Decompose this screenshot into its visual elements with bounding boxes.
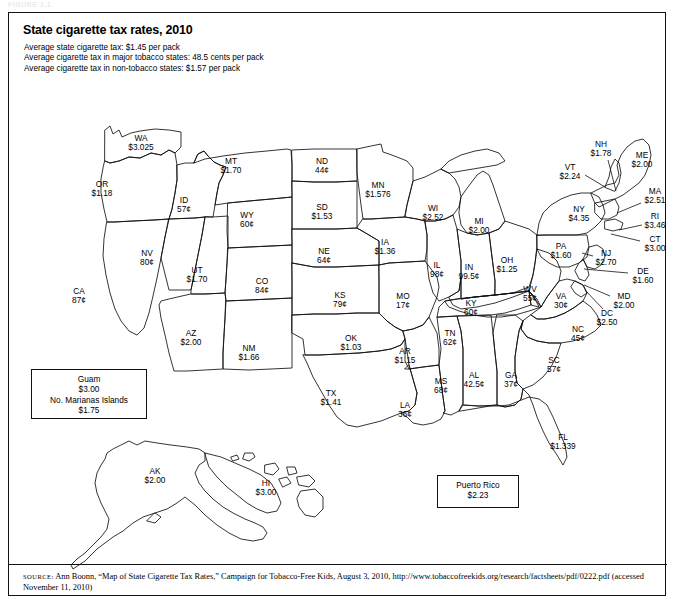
state-tax-value: 57¢ [177, 205, 191, 214]
state-tax-value: $1.18 [92, 189, 113, 198]
inset-line: $1.75 [38, 405, 140, 415]
source-note: SOURCE: Ann Boonn, “Map of State Cigaret… [23, 571, 653, 593]
source-divider [9, 564, 667, 565]
state-label-ut: UT$1.70 [187, 266, 208, 285]
state-tax-value: $1.03 [341, 343, 362, 352]
leader-line-vt [585, 175, 605, 187]
state-tax-value: $4.35 [569, 214, 590, 223]
state-tax-value: $2.70 [596, 258, 617, 267]
state-label-ms: MS68¢ [434, 377, 448, 396]
state-label-ia: IA$1.36 [375, 238, 396, 257]
state-label-va: VA30¢ [554, 292, 568, 311]
state-label-me: ME$2.00 [632, 151, 653, 170]
state-label-vt: VT$2.24 [560, 163, 581, 182]
state-tax-value: $1.25 [497, 265, 518, 274]
state-tax-value: 60¢ [464, 308, 478, 317]
state-tax-value: $1.576 [365, 190, 390, 199]
state-label-ks: KS79¢ [333, 291, 347, 310]
state-label-md: MD$2.00 [614, 292, 635, 311]
leader-line-dc [585, 290, 603, 309]
state-tax-value: $3.025 [128, 143, 153, 152]
source-label: SOURCE: [23, 573, 54, 580]
state-label-al: AL42.5¢ [464, 371, 485, 390]
state-label-id: ID57¢ [177, 196, 191, 215]
state-tax-value: $1.60 [551, 251, 572, 260]
state-label-fl: FL$1.339 [550, 433, 575, 452]
state-label-nd: ND44¢ [315, 157, 329, 176]
state-tax-value: $2.52 [423, 213, 444, 222]
state-tax-value: $1.36 [375, 247, 396, 256]
leader-line-de [584, 269, 628, 273]
state-label-az: AZ$2.00 [181, 329, 202, 348]
state-label-tn: TN62¢ [443, 329, 457, 348]
state-tax-value: 84¢ [255, 286, 269, 295]
state-label-mi: MI$2.00 [469, 217, 490, 236]
state-label-tx: TX$1.41 [321, 389, 342, 408]
state-tax-value: 79¢ [333, 300, 347, 309]
leader-line-ct [611, 234, 640, 241]
state-tax-value: $3.00 [256, 488, 277, 497]
state-label-ct: CT$3.00 [645, 235, 666, 254]
state-label-wy: WY60¢ [240, 211, 254, 230]
state-tax-value: $3.00 [645, 244, 666, 253]
state-tax-value: $1.60 [633, 276, 654, 285]
state-tax-value: 44¢ [315, 166, 329, 175]
state-label-wa: WA$3.025 [128, 134, 153, 153]
state-tax-value: 80¢ [140, 258, 154, 267]
leader-line-ma [617, 203, 641, 213]
state-tax-value: 55¢ [523, 294, 537, 303]
state-label-ar: AR$1.15 [395, 347, 416, 366]
state-tax-value: $1.15 [395, 356, 416, 365]
state-label-nc: NC45¢ [571, 325, 585, 344]
state-label-ca: CA87¢ [72, 287, 86, 306]
state-tax-value: 17¢ [396, 301, 410, 310]
state-tax-value: 62¢ [443, 338, 457, 347]
state-tax-value: 99.5¢ [459, 272, 480, 281]
state-tax-value: $1.339 [550, 442, 575, 451]
state-label-hi: HI$3.00 [256, 479, 277, 498]
state-tax-value: 36¢ [398, 410, 412, 419]
state-tax-value: $2.24 [560, 172, 581, 181]
inset-line: Puerto Rico [444, 480, 512, 490]
state-label-de: DE$1.60 [633, 267, 654, 286]
state-tax-value: $2.00 [469, 226, 490, 235]
state-tax-value: $2.50 [597, 318, 618, 327]
state-label-mt: MT$1.70 [221, 157, 242, 176]
state-label-wi: WI$2.52 [423, 204, 444, 223]
figure-container: State cigarette tax rates, 2010 Average … [8, 12, 666, 596]
state-label-sd: SD$1.53 [312, 203, 333, 222]
state-tax-value: $2.51 [645, 196, 666, 205]
state-label-in: IN99.5¢ [459, 263, 480, 282]
state-label-nv: NV80¢ [140, 249, 154, 268]
state-tax-value: $2.00 [181, 338, 202, 347]
state-label-ri: RI$3.46 [645, 212, 666, 231]
state-tax-value: $1.70 [221, 166, 242, 175]
inset-line: $3.00 [38, 384, 140, 394]
state-tax-value: 87¢ [72, 296, 86, 305]
state-tax-value: 37¢ [504, 380, 518, 389]
state-tax-value: 60¢ [240, 220, 254, 229]
state-label-nh: NH$1.78 [591, 140, 612, 159]
state-label-co: CO84¢ [255, 277, 269, 296]
state-tax-value: 45¢ [571, 334, 585, 343]
state-label-oh: OH$1.25 [497, 256, 518, 275]
inset-line: $2.23 [444, 490, 512, 500]
state-tax-value: 68¢ [434, 386, 448, 395]
inset-line: Guam [38, 374, 140, 384]
state-tax-value: $1.53 [312, 212, 333, 221]
state-tax-value: $3.46 [645, 221, 666, 230]
state-label-mn: MN$1.576 [365, 181, 390, 200]
leader-line-md [584, 285, 610, 296]
state-tax-value: 98¢ [430, 270, 444, 279]
us-cigarette-tax-map: WA$3.025OR$1.18CA87¢NV80¢ID57¢MT$1.70WY6… [9, 13, 667, 597]
state-tax-value: $1.78 [591, 149, 612, 158]
guam-marianas-inset: Guam$3.00No. Marianas Islands$1.75 [31, 369, 147, 419]
state-tax-value: 30¢ [554, 301, 568, 310]
state-label-mo: MO17¢ [396, 292, 410, 311]
puerto-rico-inset: Puerto Rico$2.23 [437, 475, 519, 508]
inset-line: No. Marianas Islands [38, 395, 140, 405]
figure-number: FIGURE 1.1 [8, 1, 51, 8]
state-label-ny: NY$4.35 [569, 205, 590, 224]
state-label-la: LA36¢ [398, 401, 412, 420]
state-tax-value: $2.00 [145, 476, 166, 485]
